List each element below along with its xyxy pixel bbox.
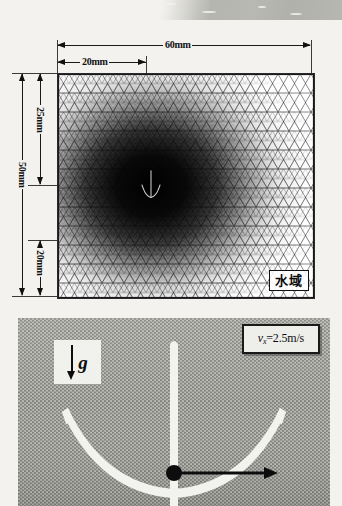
water-domain-mesh-panel: 水域 [57,73,315,299]
water-domain-label: 水域 [269,270,309,291]
gravity-label: g [78,353,88,372]
gravity-indicator: g [54,340,101,384]
dimension-25mm-label: 25mm [35,105,46,134]
dimension-20mm-top-label: 20mm [80,56,109,67]
triangular-mesh-svg [58,74,314,298]
velocity-value: =2.5m/s [266,331,304,345]
dimension-20mm-bottom-label: 20mm [35,248,46,277]
simulation-panel: g vx=2.5m/s [18,318,330,506]
photo-strip-fade [138,0,210,20]
gravity-arrow-icon [67,345,76,379]
velocity-text: vx=2.5m/s [258,331,304,345]
velocity-callout: vx=2.5m/s [242,324,320,354]
dimension-50mm-label: 50mm [17,160,28,189]
dimension-60mm-label: 60mm [163,39,192,50]
